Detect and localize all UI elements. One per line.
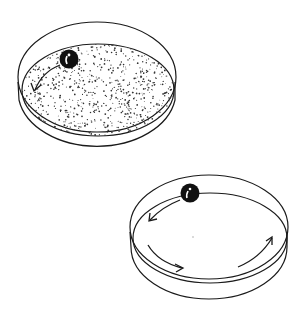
dish-base-wall — [130, 232, 287, 299]
arrow-left — [150, 200, 180, 220]
ball — [181, 184, 200, 203]
smooth-dish — [130, 175, 288, 299]
dish-outer-rim — [130, 175, 288, 279]
petri-dish-illustration — [0, 0, 306, 316]
ball — [60, 50, 79, 69]
dish-inner-floor — [133, 193, 287, 283]
diagram-canvas — [0, 0, 306, 316]
dish-outer-rim — [18, 22, 176, 132]
center-mark — [192, 236, 193, 237]
textured-dish — [18, 22, 176, 146]
motion-arrows — [148, 200, 272, 272]
